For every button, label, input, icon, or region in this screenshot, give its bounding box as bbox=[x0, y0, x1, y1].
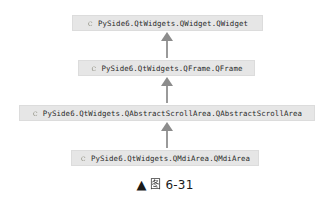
class-icon: C bbox=[90, 65, 97, 72]
class-node-qframe[interactable]: C PySide6.QtWidgets.QFrame.QFrame bbox=[78, 60, 255, 76]
class-node-label: PySide6.QtWidgets.QAbstractScrollArea.QA… bbox=[43, 109, 302, 118]
class-node-qmdiarea[interactable]: C PySide6.QtWidgets.QMdiArea.QMdiArea bbox=[71, 150, 259, 166]
figure-label-cjk: 图 bbox=[150, 179, 161, 190]
class-icon: C bbox=[87, 20, 94, 27]
triangle-marker-icon: ▲ bbox=[136, 178, 146, 191]
inheritance-arrow-head-qframe-to-qwidget bbox=[161, 32, 173, 41]
inheritance-arrow-head-qmdiarea-to-qabstractscrollarea bbox=[161, 122, 173, 131]
class-inheritance-diagram: C PySide6.QtWidgets.QWidget.QWidget C Py… bbox=[0, 0, 330, 175]
inheritance-arrow-head-qabstractscrollarea-to-qframe bbox=[161, 77, 173, 86]
class-icon: C bbox=[80, 155, 87, 162]
figure-caption: ▲ 图 6-31 bbox=[0, 178, 330, 191]
class-icon: C bbox=[32, 110, 39, 117]
figure-number: 6-31 bbox=[165, 179, 193, 191]
class-node-qwidget[interactable]: C PySide6.QtWidgets.QWidget.QWidget bbox=[72, 15, 263, 31]
class-node-label: PySide6.QtWidgets.QWidget.QWidget bbox=[98, 19, 248, 28]
class-node-qabstractscrollarea[interactable]: C PySide6.QtWidgets.QAbstractScrollArea.… bbox=[19, 105, 315, 121]
class-node-label: PySide6.QtWidgets.QFrame.QFrame bbox=[101, 64, 242, 73]
class-node-label: PySide6.QtWidgets.QMdiArea.QMdiArea bbox=[91, 154, 250, 163]
